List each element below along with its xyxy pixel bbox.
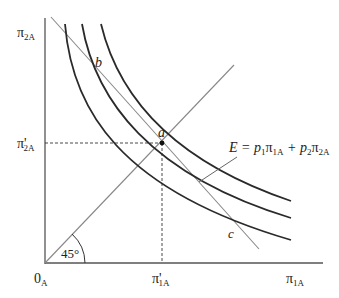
point-a-marker: [160, 141, 165, 146]
indifference-diagram: π2A π'2A 0A π'1A π1A a b c 45° E = p1π1A…: [0, 0, 339, 298]
point-b-label: b: [95, 55, 102, 70]
point-c-label: c: [228, 226, 234, 241]
equation-label: E = p1π1A + p2π2A: [228, 140, 330, 157]
y-axis-label: π2A: [17, 25, 36, 42]
certainty-line-45deg: [45, 65, 234, 263]
budget-line: [51, 17, 259, 249]
origin-label: 0A: [34, 271, 48, 288]
point-a-label: a: [158, 125, 165, 140]
angle-label: 45°: [61, 246, 79, 261]
x-tick-label: π'1A: [152, 271, 170, 288]
x-axis-label: π1A: [286, 271, 305, 288]
y-tick-label: π'2A: [17, 136, 35, 153]
